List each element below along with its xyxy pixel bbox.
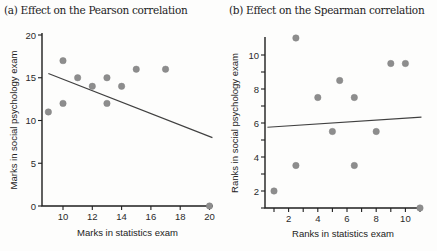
x-tick-label: 10 — [58, 211, 69, 222]
x-tick-label: 6 — [344, 213, 349, 224]
pearson-y-axis-label: Marks in social psychology exam — [8, 51, 19, 190]
data-point — [133, 66, 139, 72]
data-point — [104, 100, 110, 106]
spearman-y-axis-label: Ranks in social psychology exam — [229, 53, 240, 193]
data-point — [206, 203, 212, 209]
pearson-chart-title: (a) Effect on the Pearson correlation — [4, 4, 187, 16]
data-point — [417, 205, 423, 211]
data-point — [315, 94, 321, 100]
spearman-x-axis-label: Ranks in statistics exam — [265, 228, 421, 239]
x-tick-label: 20 — [204, 211, 215, 222]
data-point — [162, 66, 168, 72]
spearman-scatter-canvas: 246810246810 — [218, 0, 437, 251]
data-point — [60, 100, 66, 106]
x-tick-label: 14 — [116, 211, 127, 222]
x-tick-label: 18 — [175, 211, 186, 222]
data-point — [337, 77, 343, 83]
x-tick-label: 2 — [286, 213, 291, 224]
spearman-chart-title: (b) Effect on the Spearman correlation — [229, 4, 424, 16]
pearson-scatter-canvas: 10121416182005101520 — [0, 0, 218, 251]
data-point — [89, 83, 95, 89]
x-tick-label: 8 — [374, 213, 379, 224]
data-point — [118, 83, 124, 89]
regression-line — [267, 117, 421, 127]
spearman-chart: 246810246810 (b) Effect on the Spearman … — [218, 0, 437, 251]
x-tick-label: 10 — [400, 213, 411, 224]
pearson-chart: 10121416182005101520 (a) Effect on the P… — [0, 0, 218, 251]
y-tick-label: 4 — [254, 152, 259, 163]
data-point — [60, 57, 66, 63]
y-tick-label: 15 — [25, 72, 36, 83]
data-point — [351, 162, 357, 168]
data-point — [74, 75, 80, 81]
data-point — [351, 94, 357, 100]
y-tick-label: 10 — [25, 115, 36, 126]
data-point — [45, 109, 51, 115]
y-tick-label: 8 — [254, 84, 259, 95]
y-tick-label: 2 — [254, 186, 259, 197]
y-tick-label: 0 — [31, 201, 36, 212]
data-point — [329, 128, 335, 134]
regression-line — [48, 73, 212, 137]
pearson-x-axis-label: Marks in statistics exam — [42, 227, 213, 238]
data-point — [373, 128, 379, 134]
data-point — [293, 35, 299, 41]
data-point — [104, 75, 110, 81]
correlation-figure: 10121416182005101520 (a) Effect on the P… — [0, 0, 437, 251]
x-tick-label: 16 — [146, 211, 157, 222]
data-point — [293, 162, 299, 168]
y-tick-label: 5 — [31, 158, 36, 169]
data-point — [402, 60, 408, 66]
y-tick-label: 10 — [248, 50, 259, 61]
y-tick-label: 20 — [25, 30, 36, 41]
data-point — [388, 60, 394, 66]
x-tick-label: 12 — [87, 211, 98, 222]
data-point — [271, 188, 277, 194]
y-tick-label: 6 — [254, 118, 259, 129]
x-tick-label: 4 — [315, 213, 320, 224]
axis-lines — [42, 33, 213, 206]
